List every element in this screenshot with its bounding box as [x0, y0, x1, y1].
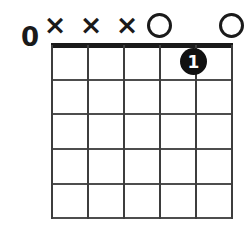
string-line-2 [87, 45, 89, 219]
string-marker-muted-2: × [77, 11, 105, 38]
fret-line-2 [51, 113, 233, 115]
string-line-1 [51, 45, 53, 219]
string-marker-open-6 [219, 13, 244, 38]
string-line-6 [231, 45, 233, 219]
nut-line [51, 43, 233, 48]
string-marker-muted-3: × [113, 11, 141, 38]
string-marker-open-4 [147, 13, 172, 38]
string-line-3 [123, 45, 125, 219]
fret-line-1 [51, 79, 233, 81]
open-string-zero-label: 0 [19, 24, 41, 50]
chord-diagram: 0 × × × 1 [0, 0, 251, 234]
fret-line-3 [51, 148, 233, 150]
finger-dot-string5-fret1: 1 [180, 48, 207, 75]
string-line-4 [159, 45, 161, 219]
fret-line-5 [51, 217, 233, 219]
fret-line-4 [51, 183, 233, 185]
string-marker-muted-1: × [41, 11, 69, 38]
